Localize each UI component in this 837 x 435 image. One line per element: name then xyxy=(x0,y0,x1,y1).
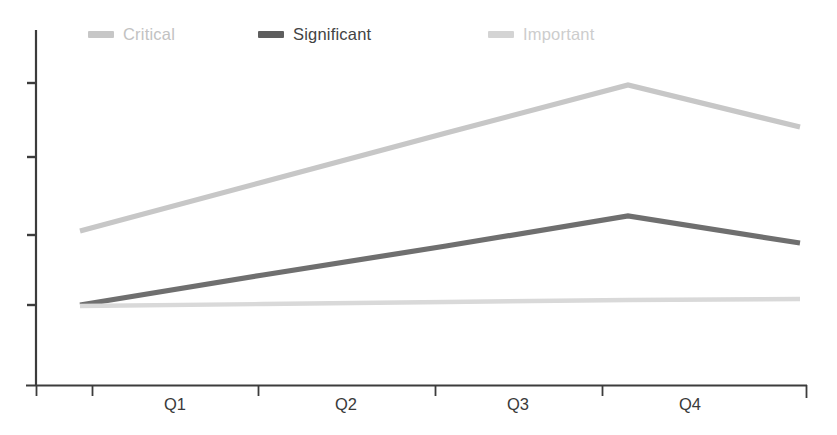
x-label-q2: Q2 xyxy=(335,396,357,413)
series-lines xyxy=(80,85,800,306)
x-label-q4: Q4 xyxy=(679,396,701,413)
series-line-significant xyxy=(80,216,800,305)
plot-area xyxy=(0,0,837,435)
series-line-critical xyxy=(80,85,800,231)
y-axis xyxy=(27,30,36,386)
line-chart: Critical Significant Important xyxy=(0,0,837,435)
x-label-q1: Q1 xyxy=(164,396,186,413)
series-line-important xyxy=(80,299,800,306)
x-label-q3: Q3 xyxy=(507,396,529,413)
